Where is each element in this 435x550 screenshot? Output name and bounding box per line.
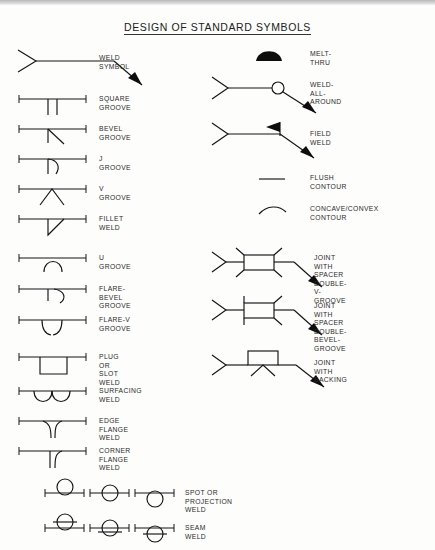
melt-thru-icon	[250, 45, 294, 65]
weld-symbol-leader-arrow-icon	[14, 45, 154, 89]
symbol-label: FLUSH CONTOUR	[310, 174, 347, 191]
symbol-label: SQUARE GROOVE	[99, 95, 131, 112]
symbol-label: SURFACING WELD	[99, 387, 142, 404]
page-title-text: DESIGN OF STANDARD SYMBOLS	[124, 21, 311, 35]
square-groove-icon	[14, 91, 94, 117]
page-title: DESIGN OF STANDARD SYMBOLS	[0, 21, 435, 33]
flare-bevel-groove-icon	[14, 281, 94, 307]
symbol-label: U GROOVE	[99, 254, 131, 271]
symbol-label: BEVEL GROOVE	[99, 125, 131, 142]
symbol-label: FILLET WELD	[99, 215, 123, 232]
bevel-groove-icon	[14, 121, 94, 147]
symbol-label: WELD SYMBOL	[99, 54, 129, 71]
symbol-label: SPOT OR PROJECTION WELD	[185, 489, 232, 515]
flare-v-groove-icon	[14, 312, 94, 338]
corner-flange-weld-icon	[14, 443, 94, 471]
surfacing-weld-icon	[14, 383, 94, 409]
symbol-label: EDGE FLANGE WELD	[99, 417, 128, 443]
symbol-label: FIELD WELD	[310, 130, 331, 147]
symbol-label: CORNER FLANGE WELD	[99, 447, 131, 473]
edge-flange-weld-icon	[14, 413, 94, 441]
symbol-label: V GROOVE	[99, 185, 131, 202]
symbol-label: JOINT WITH BACKING	[314, 359, 347, 385]
symbol-label: FLARE-BEVEL GROOVE	[99, 285, 131, 311]
symbol-label: J GROOVE	[99, 155, 131, 172]
symbol-label: WELD-ALL-AROUND	[310, 81, 342, 107]
chart-sheet: DESIGN OF STANDARD SYMBOLS WELD SYMBOL S…	[0, 5, 435, 550]
symbol-label: SEAM WELD	[185, 524, 206, 541]
flush-contour-icon	[255, 173, 295, 185]
plug-or-slot-weld-icon	[14, 349, 94, 377]
concave-convex-contour-icon	[255, 203, 295, 217]
j-groove-icon	[14, 151, 94, 177]
symbol-label: MELT-THRU	[310, 50, 331, 67]
spot-or-projection-weld-icon	[40, 475, 180, 509]
seam-weld-icon	[40, 510, 180, 544]
fillet-weld-icon	[14, 211, 94, 237]
symbol-label: FLARE-V GROOVE	[99, 316, 131, 333]
symbol-label: PLUG OR SLOT WELD	[99, 353, 120, 387]
symbol-label: CONCAVE/CONVEX CONTOUR	[310, 205, 379, 222]
v-groove-icon	[14, 181, 94, 207]
u-groove-icon	[14, 250, 94, 276]
